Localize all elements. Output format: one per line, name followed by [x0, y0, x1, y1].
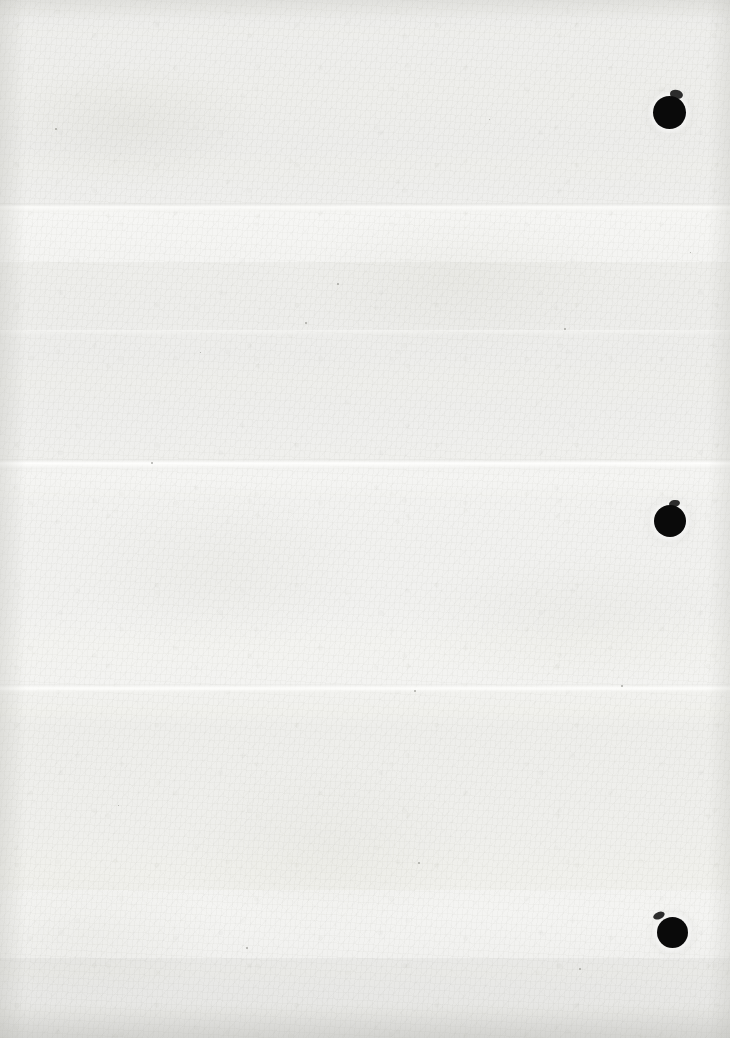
scanned-page: [0, 0, 730, 1038]
paper-surface: [0, 0, 730, 1038]
